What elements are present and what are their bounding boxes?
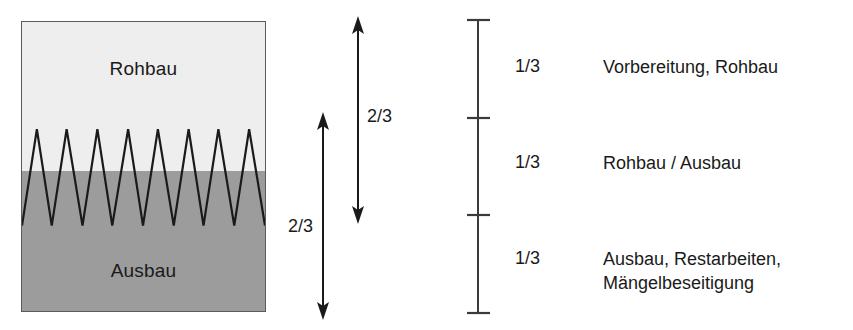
legend-row: 1/3 Ausbau, Restarbeiten, Mängelbeseitig… <box>515 248 850 296</box>
scale-bar-icon <box>462 12 496 322</box>
band-label-ausbau: Ausbau <box>22 260 265 282</box>
legend-row: 1/3 Vorbereitung, Rohbau <box>515 56 850 80</box>
legend-description: Rohbau / Ausbau <box>603 152 741 176</box>
legend-row: 1/3 Rohbau / Ausbau <box>515 152 850 176</box>
band-label-rohbau: Rohbau <box>22 58 265 80</box>
legend-description-line: Ausbau, Restarbeiten, <box>603 248 781 272</box>
arrow-left-label: 2/3 <box>288 216 313 237</box>
band-ausbau <box>22 171 265 312</box>
arrow-right-label: 2/3 <box>367 106 392 127</box>
legend-description-line: Vorbereitung, Rohbau <box>603 56 778 80</box>
legend-description: Vorbereitung, Rohbau <box>603 56 778 80</box>
legend-description-line: Mängelbeseitigung <box>603 272 781 296</box>
legend-description-line: Rohbau / Ausbau <box>603 152 741 176</box>
legend-fraction: 1/3 <box>515 152 603 173</box>
legend-fraction: 1/3 <box>515 56 603 77</box>
diagram-canvas: Rohbau Ausbau 2/3 2/3 1/3 Vorbereitung, … <box>0 0 853 330</box>
legend-fraction: 1/3 <box>515 248 603 269</box>
band-rohbau <box>22 22 265 171</box>
phase-block: Rohbau Ausbau <box>21 21 266 312</box>
legend-description: Ausbau, Restarbeiten, Mängelbeseitigung <box>603 248 781 296</box>
